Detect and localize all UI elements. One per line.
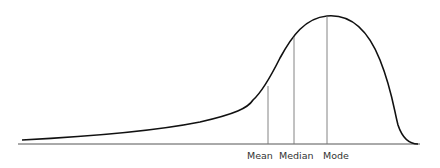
mean-label: Mean — [247, 150, 273, 161]
mode-label: Mode — [323, 150, 349, 161]
median-label: Median — [279, 150, 314, 161]
distribution-curve — [22, 16, 418, 144]
skewed-distribution-chart: Mean Median Mode — [0, 0, 440, 168]
